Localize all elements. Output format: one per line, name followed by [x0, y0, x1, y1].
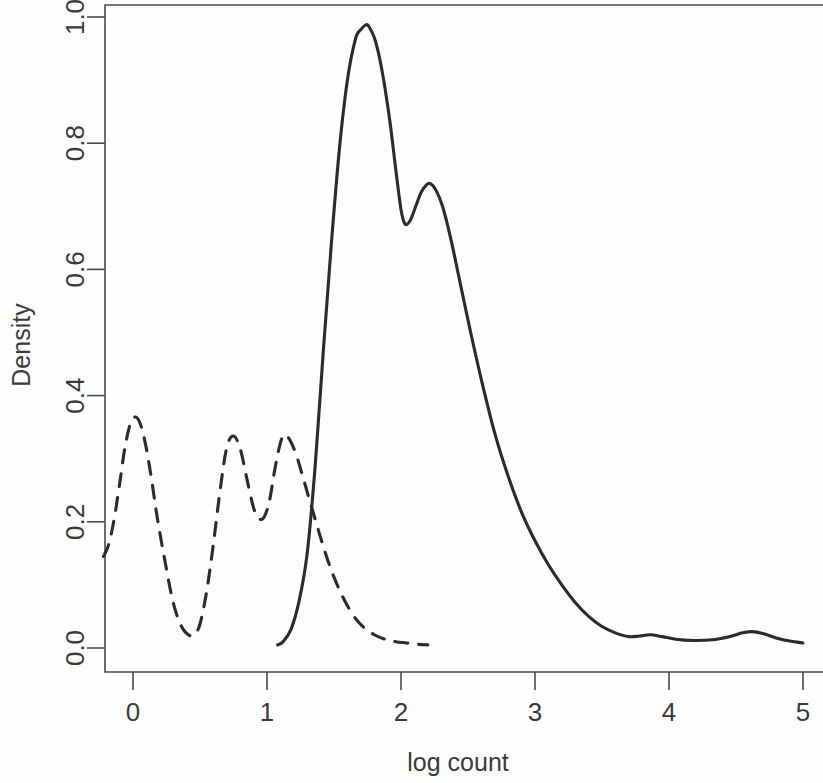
density-curves	[104, 24, 803, 645]
x-axis-title: log count	[407, 748, 509, 776]
x-tick-label: 1	[260, 697, 274, 727]
x-axis-ticks	[133, 672, 803, 690]
y-tick-label: 0.0	[60, 630, 90, 666]
y-tick-label: 0.2	[60, 504, 90, 540]
density-plot-figure: 012345 0.00.20.40.60.81.0 log count Dens…	[0, 0, 823, 783]
y-axis-tick-labels: 0.00.20.40.60.81.0	[60, 0, 90, 666]
chart-canvas: 012345 0.00.20.40.60.81.0 log count Dens…	[0, 0, 823, 783]
x-axis-tick-labels: 012345	[126, 697, 810, 727]
y-axis-title: Density	[7, 303, 35, 387]
x-tick-label: 2	[394, 697, 408, 727]
density-curve-dashed	[104, 417, 428, 645]
plot-frame	[105, 5, 823, 672]
x-tick-label: 0	[126, 697, 140, 727]
x-tick-label: 5	[796, 697, 810, 727]
x-tick-label: 3	[528, 697, 542, 727]
y-tick-label: 0.6	[60, 251, 90, 287]
y-tick-label: 0.8	[60, 125, 90, 161]
density-curve-solid	[278, 24, 803, 645]
plot-box-border	[105, 5, 823, 672]
x-tick-label: 4	[662, 697, 676, 727]
y-tick-label: 0.4	[60, 378, 90, 414]
y-tick-label: 1.0	[60, 0, 90, 35]
y-axis-ticks	[87, 17, 105, 648]
